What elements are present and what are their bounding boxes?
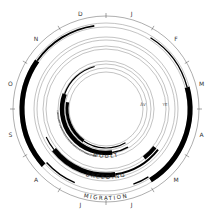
ring-labels: MIGRATION BREEDING MOULT (83, 151, 128, 201)
migration-bar (22, 61, 44, 165)
month-label: M (173, 176, 178, 183)
month-label: F (174, 35, 178, 42)
migration-guide-ring (24, 27, 188, 191)
moult-bar (65, 67, 95, 94)
month-label: J (130, 10, 133, 18)
inner-ring-label: ÅV (140, 102, 146, 107)
moult-guide-ring (58, 61, 154, 157)
month-label: D (78, 10, 83, 17)
month-label: N (34, 35, 39, 42)
moult-guide-ring (69, 72, 143, 146)
breeding-guide-ring (34, 37, 178, 181)
migration-label: MIGRATION (83, 192, 128, 201)
month-label: J (130, 201, 133, 209)
month-label: M (199, 80, 204, 87)
inner-ring-label: YE (162, 102, 168, 107)
breeding-label: BREEDING (85, 171, 127, 180)
month-label: S (8, 131, 12, 138)
month-label: J (78, 201, 81, 209)
annual-cycle-diagram: JFMAMJJASOND MIGRATION BREEDING MOULT ÅV… (0, 0, 212, 219)
month-label: O (8, 80, 13, 87)
month-label: A (34, 176, 39, 183)
month-label: A (200, 131, 205, 138)
moult-guide-ring (65, 68, 147, 150)
